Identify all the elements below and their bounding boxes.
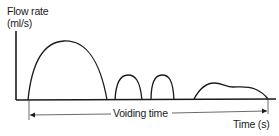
y-axis-unit: (ml/s): [7, 18, 32, 29]
x-axis-label: Time (s): [233, 119, 270, 130]
uroflow-diagram: Flow rate (ml/s) Voiding time Time (s): [0, 0, 279, 136]
voiding-arrow-right-line: [172, 111, 267, 113]
flow-curve-segment-3: [151, 75, 174, 100]
x-axis: [16, 99, 276, 100]
flow-curve-segment-1: [28, 41, 107, 100]
voiding-time-label: Voiding time: [112, 108, 169, 119]
flow-curve-segment-2: [115, 75, 142, 100]
voiding-arrow-left-line: [30, 114, 111, 115]
arrowhead-left-icon: [30, 113, 35, 118]
y-axis-label: Flow rate: [7, 6, 48, 17]
flow-curve-segment-4: [194, 83, 268, 99]
arrowhead-right-icon: [262, 109, 267, 114]
